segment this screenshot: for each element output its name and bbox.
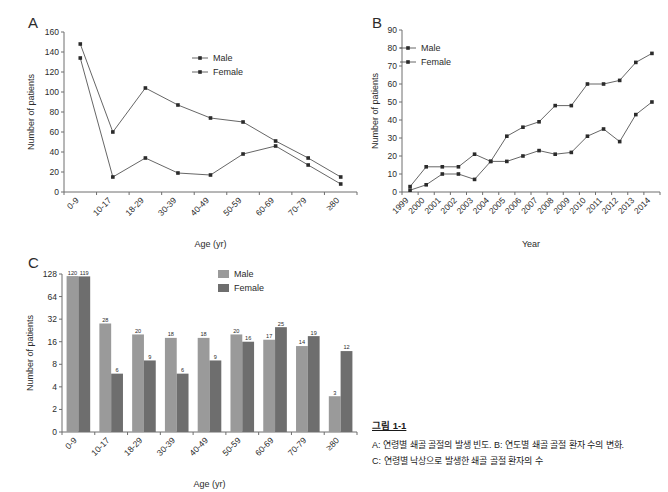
y-tick-label: 80 [50, 107, 60, 117]
panel-b-letter: B [372, 14, 382, 31]
data-point [537, 120, 541, 124]
data-point [408, 188, 412, 192]
x-tick-label: 2010 [567, 195, 588, 216]
y-tick-label: 40 [50, 147, 60, 157]
x-tick-label: 50-59 [220, 435, 243, 458]
series-line-female [80, 58, 340, 184]
data-point [339, 175, 343, 179]
y-tick-label: 140 [45, 47, 59, 57]
bar-female [177, 374, 189, 432]
y-tick-label: 90 [388, 25, 398, 35]
caption-title: 그림 1-1 [372, 418, 668, 434]
y-tick-label: 60 [388, 79, 398, 89]
data-point [424, 165, 428, 169]
data-point [274, 144, 278, 148]
caption-line-2: C: 연령별 낙상으로 발생한 쇄골 골절 환자의 수 [372, 453, 668, 469]
bar-female [308, 336, 320, 432]
x-tick-label: 2007 [519, 195, 540, 216]
x-tick-label: 2002 [438, 195, 459, 216]
x-axis-title: Year [522, 239, 540, 249]
data-point [78, 42, 82, 46]
data-point [424, 183, 428, 187]
x-tick-label: 2008 [535, 195, 556, 216]
data-point [553, 104, 557, 108]
data-point [521, 125, 525, 129]
data-point [306, 163, 310, 167]
x-tick-label: 60-69 [254, 195, 277, 218]
bar-value-label: 20 [233, 328, 239, 334]
data-point [241, 120, 245, 124]
y-tick-label: 4 [52, 382, 57, 392]
bar-value-label: 17 [266, 333, 272, 339]
panel-a: A 0204060801001201401600-910-1718-2930-3… [22, 10, 367, 250]
x-tick-label: 18-29 [123, 195, 146, 218]
y-tick-label: 0 [392, 187, 397, 197]
bar-male [230, 334, 242, 432]
panel-c-chart: 02481632641280-912011910-1728618-2920930… [22, 252, 367, 490]
bar-value-label: 120 [68, 270, 77, 276]
bar-male [263, 340, 275, 432]
x-tick-label: 10-17 [91, 195, 114, 218]
y-tick-label: 2 [52, 404, 57, 414]
legend-marker [198, 56, 202, 60]
data-point [521, 154, 525, 158]
x-tick-label: 18-29 [122, 435, 145, 458]
x-tick-label: 50-59 [221, 195, 244, 218]
data-point [473, 152, 477, 156]
data-point [144, 86, 148, 90]
bar-female [341, 351, 353, 432]
bar-value-label: 14 [299, 339, 305, 345]
bar-male [198, 338, 210, 432]
y-axis-title: Number of patients [26, 73, 36, 150]
bar-value-label: 12 [343, 344, 349, 350]
data-point [473, 178, 477, 182]
bar-female [210, 360, 222, 432]
y-axis-title: Number of patients [370, 72, 380, 149]
bar-male [67, 276, 79, 432]
data-point [111, 175, 115, 179]
x-tick-label: 10-17 [89, 435, 112, 458]
y-tick-label: 128 [43, 269, 57, 279]
bar-female [242, 342, 254, 432]
bar-value-label: 9 [148, 354, 151, 360]
x-axis-title: Age (yr) [194, 239, 226, 249]
x-tick-label: 30-39 [155, 435, 178, 458]
figure-caption: 그림 1-1 A: 연령별 쇄골 골절의 발생 빈도. B: 연도별 쇄골 골절… [372, 418, 668, 469]
data-point [241, 152, 245, 156]
data-point [441, 172, 445, 176]
x-tick-label: 40-49 [187, 435, 210, 458]
series-line-male [410, 53, 652, 186]
data-point [570, 104, 574, 108]
x-tick-label: ≥80 [324, 435, 341, 452]
bar-male [329, 396, 341, 432]
data-point [586, 82, 590, 86]
x-tick-label: 70-79 [286, 195, 309, 218]
data-point [505, 134, 509, 138]
y-tick-label: 30 [388, 133, 398, 143]
legend-label-male: Male [213, 53, 233, 63]
y-tick-label: 70 [388, 61, 398, 71]
y-tick-label: 16 [48, 337, 58, 347]
bar-value-label: 6 [181, 367, 184, 373]
y-tick-label: 64 [48, 292, 58, 302]
x-axis-title: Age (yr) [193, 479, 225, 489]
data-point [274, 139, 278, 143]
bar-male [132, 334, 144, 432]
y-tick-label: 60 [50, 127, 60, 137]
y-tick-label: 10 [388, 169, 398, 179]
legend-marker [406, 46, 410, 50]
bar-value-label: 19 [311, 330, 317, 336]
legend-swatch-male [218, 270, 229, 278]
y-tick-label: 20 [388, 151, 398, 161]
x-tick-label: 1999 [390, 195, 411, 216]
legend-label-female: Female [234, 283, 264, 293]
data-point [570, 151, 574, 155]
y-tick-label: 8 [52, 359, 57, 369]
legend-label-male: Male [234, 269, 254, 279]
x-tick-label: 2006 [503, 195, 524, 216]
bar-value-label: 119 [80, 270, 89, 276]
data-point [505, 160, 509, 164]
bar-female [144, 360, 156, 432]
x-tick-label: 2012 [600, 195, 621, 216]
panel-b-chart: 0102030405060708090199920002001200220032… [368, 10, 668, 250]
